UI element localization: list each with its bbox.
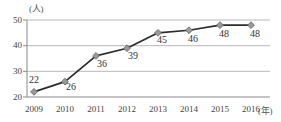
data-label-2010: 26 (59, 81, 83, 92)
data-label-2015: 48 (212, 28, 236, 39)
data-point-marker-2009 (31, 88, 38, 95)
x-tick-label-2010: 2010 (48, 104, 82, 114)
data-label-2011: 36 (90, 58, 114, 69)
data-label-2009: 22 (22, 74, 46, 85)
x-tick-label-2012: 2012 (110, 104, 144, 114)
x-tick-label-2015: 2015 (203, 104, 237, 114)
y-tick-label-30: 30 (4, 66, 22, 76)
y-axis-unit-label: (人) (29, 2, 43, 15)
x-tick-label-2013: 2013 (141, 104, 175, 114)
line-chart: (人) (年) 50 40 30 20 2009 2010 2011 2012 … (0, 0, 281, 122)
y-tick-label-20: 20 (4, 92, 22, 102)
y-tick-label-40: 40 (4, 40, 22, 50)
x-tick-label-2011: 2011 (79, 104, 113, 114)
data-label-2013: 45 (150, 34, 174, 45)
y-tick-label-50: 50 (4, 15, 22, 25)
x-tick-label-2016: 2016 (234, 104, 268, 114)
data-label-2014: 46 (181, 33, 205, 44)
data-label-2016: 48 (243, 28, 267, 39)
data-label-2012: 39 (121, 50, 145, 61)
x-tick-label-2009: 2009 (17, 104, 51, 114)
x-tick-label-2014: 2014 (172, 104, 206, 114)
